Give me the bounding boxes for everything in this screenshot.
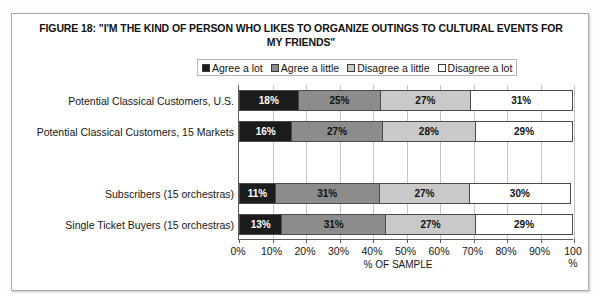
- bar-segment: 27%: [381, 90, 470, 111]
- legend-swatch-icon: [438, 64, 446, 72]
- figure-root: FIGURE 18: "I'M THE KIND OF PERSON WHO L…: [0, 0, 602, 297]
- bar-value-label: 27%: [415, 95, 435, 106]
- chart-legend: Agree a lotAgree a littleDisagree a litt…: [197, 59, 517, 76]
- bar-segment: 25%: [299, 90, 382, 111]
- axis-tick: [407, 239, 408, 243]
- bar-value-label: 16%: [256, 126, 276, 137]
- bar-value-label: 25%: [329, 95, 349, 106]
- legend-label: Disagree a lot: [448, 62, 513, 74]
- bar-segment: 16%: [239, 121, 292, 142]
- bar-value-label: 27%: [327, 126, 347, 137]
- bar-row: 11%31%27%30%: [239, 183, 573, 204]
- legend-entry: Agree a little: [271, 62, 339, 74]
- bar-segment: 28%: [383, 121, 477, 142]
- bar-value-label: 31%: [324, 219, 344, 230]
- axis-tick: [541, 239, 542, 243]
- bar-segment: 27%: [380, 183, 470, 204]
- bar-segment: 30%: [470, 183, 571, 204]
- legend-entry: Disagree a little: [347, 62, 429, 74]
- bar-segment: 27%: [386, 214, 476, 235]
- bar-value-label: 31%: [511, 95, 531, 106]
- bar-segment: 27%: [292, 121, 382, 142]
- figure-frame: FIGURE 18: "I'M THE KIND OF PERSON WHO L…: [11, 13, 589, 291]
- legend-swatch-icon: [347, 64, 355, 72]
- bar-value-label: 13%: [251, 219, 271, 230]
- bar-row: 13%31%27%29%: [239, 214, 573, 235]
- bar-value-label: 30%: [510, 188, 530, 199]
- bar-value-label: 27%: [414, 188, 434, 199]
- plot-area: 18%25%27%31%16%27%28%29%11%31%27%30%13%3…: [238, 85, 573, 240]
- legend-swatch-icon: [202, 64, 210, 72]
- bar-value-label: 18%: [259, 95, 279, 106]
- axis-tick: [440, 239, 441, 243]
- bar-segment: 31%: [282, 214, 386, 235]
- bar-value-label: 29%: [514, 126, 534, 137]
- legend-label: Disagree a little: [357, 62, 429, 74]
- bar-segment: 11%: [239, 183, 276, 204]
- legend-swatch-icon: [271, 64, 279, 72]
- legend-label: Agree a lot: [212, 62, 263, 74]
- axis-tick: [273, 239, 274, 243]
- bar-value-label: 31%: [317, 188, 337, 199]
- bar-value-label: 29%: [514, 219, 534, 230]
- axis-ticks: [239, 239, 573, 243]
- bar-row: 16%27%28%29%: [239, 121, 573, 142]
- bar-value-label: 28%: [419, 126, 439, 137]
- chart-title: FIGURE 18: "I'M THE KIND OF PERSON WHO L…: [32, 21, 570, 49]
- bar-value-label: 11%: [248, 188, 267, 199]
- axis-title: % OF SAMPLE: [238, 259, 558, 270]
- legend-entry: Agree a lot: [202, 62, 263, 74]
- axis-tick: [474, 239, 475, 243]
- axis-tick: [239, 239, 240, 243]
- axis-tick: [507, 239, 508, 243]
- axis-tick: [340, 239, 341, 243]
- bar-segment: 31%: [471, 90, 574, 111]
- axis-tick: [306, 239, 307, 243]
- bar-segment: 29%: [476, 121, 573, 142]
- category-axis-labels: Potential Classical Customers, U.S.Poten…: [12, 85, 234, 240]
- legend-entry: Disagree a lot: [438, 62, 513, 74]
- category-label: Potential Classical Customers, U.S.: [4, 95, 234, 107]
- bar-segment: 13%: [239, 214, 282, 235]
- bar-row: 18%25%27%31%: [239, 90, 573, 111]
- bar-segment: 31%: [276, 183, 380, 204]
- bar-value-label: 27%: [421, 219, 441, 230]
- category-label: Subscribers (15 orchestras): [4, 188, 234, 200]
- category-label: Single Ticket Buyers (15 orchestras): [4, 219, 234, 231]
- legend-label: Agree a little: [281, 62, 339, 74]
- bar-segment: 18%: [239, 90, 299, 111]
- category-label: Potential Classical Customers, 15 Market…: [4, 126, 234, 138]
- axis-tick: [574, 239, 575, 243]
- axis-tick-label: 100 %: [553, 245, 593, 269]
- gridline: [574, 85, 575, 239]
- bar-segment: 29%: [476, 214, 573, 235]
- axis-tick: [373, 239, 374, 243]
